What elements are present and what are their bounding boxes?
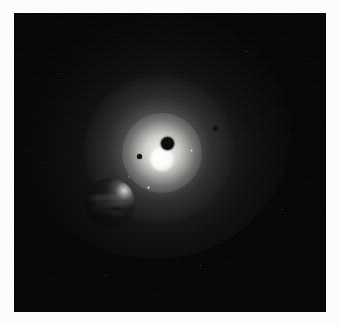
central-star — [150, 147, 174, 171]
speck-bright-lower — [147, 186, 150, 189]
speck-right-dark — [213, 126, 218, 131]
astronomical-photograph — [14, 13, 326, 312]
background-star — [106, 275, 107, 276]
speck-faint-lowleft — [128, 176, 130, 178]
background-star — [58, 73, 59, 74]
background-star — [246, 51, 247, 52]
speck-left-dark — [137, 154, 142, 159]
background-star — [282, 209, 283, 210]
background-star — [200, 265, 201, 266]
crescent-planet — [85, 178, 135, 228]
background-star — [42, 163, 43, 164]
planet-limb-crescent — [85, 178, 135, 228]
corona-outer-halo — [20, 13, 290, 259]
image-frame — [0, 0, 340, 325]
transit-body — [161, 137, 174, 150]
speck-bright-right — [190, 149, 193, 152]
